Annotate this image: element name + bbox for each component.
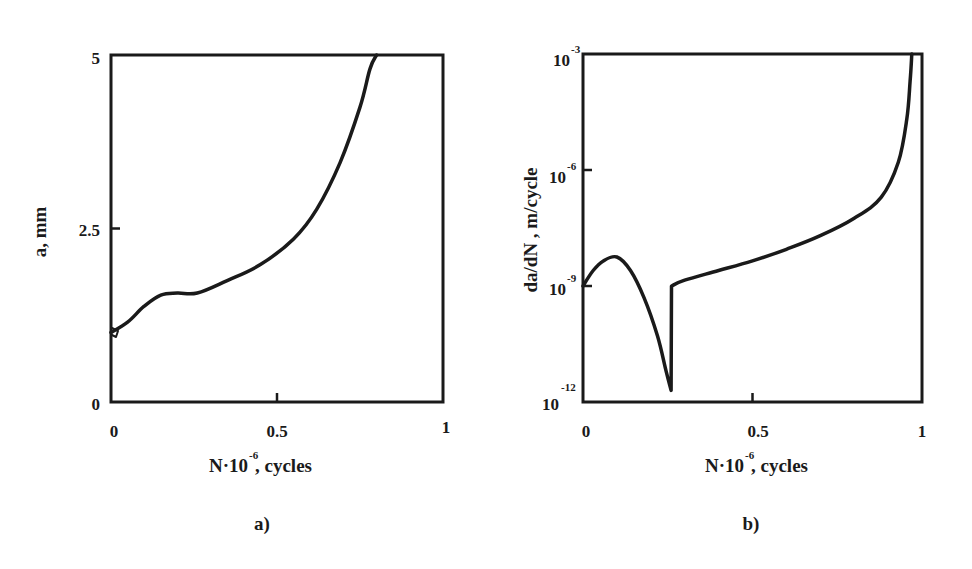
plot-b-frame: [583, 54, 922, 402]
plot-a-xtick-label: 0: [110, 422, 119, 441]
plot-b-xlabel: N·10 -6 , cycles: [705, 449, 808, 476]
plot-b-caption: b): [743, 513, 760, 535]
plot-a-xtick-label: 1: [442, 418, 451, 437]
plot-b-curve: [583, 54, 912, 390]
plot-b-xtick-label: 0.5: [747, 422, 768, 441]
plot-b-ytick-label-1e-12: 10 -12: [542, 381, 576, 414]
svg-text:-9: -9: [567, 272, 577, 284]
svg-text:-12: -12: [561, 381, 576, 393]
plot-a-ytick-label: 0: [92, 395, 101, 414]
svg-text:-3: -3: [571, 43, 581, 55]
plot-b-ytick-label-1e-9: 10 -9: [549, 272, 577, 299]
plot-a: 5 2.5 0 0 0.5 1 a, mm N·10 -6 , cycles a…: [29, 49, 450, 535]
figure-canvas: 5 2.5 0 0 0.5 1 a, mm N·10 -6 , cycles a…: [0, 0, 972, 569]
plot-b-ylabel: da/dN , m/cycle: [520, 167, 541, 292]
plot-a-ylabel: a, mm: [29, 207, 50, 258]
svg-text:-6: -6: [567, 160, 577, 172]
svg-text:N·10: N·10: [705, 455, 744, 476]
plot-b-ytick-label-1e-3: 10 -3: [553, 43, 581, 70]
plot-a-caption: a): [254, 513, 270, 535]
svg-text:, cycles: , cycles: [751, 455, 808, 476]
svg-text:10: 10: [549, 280, 566, 299]
svg-text:10: 10: [553, 51, 570, 70]
plot-a-ytick-label: 2.5: [79, 221, 100, 240]
svg-text:N·10: N·10: [209, 455, 248, 476]
svg-text:10: 10: [549, 168, 566, 187]
svg-text:10: 10: [542, 395, 559, 414]
plot-b-ytick-label-1e-6: 10 -6: [549, 160, 577, 187]
svg-text:, cycles: , cycles: [255, 455, 312, 476]
plot-b-xtick-label: 0: [582, 422, 591, 441]
plot-b: 10 -3 10 -6 10 -9 10 -12 0 0.5 1 da/dN ,…: [520, 43, 926, 535]
plot-a-xtick-label: 0.5: [266, 422, 287, 441]
plot-a-frame: [111, 55, 443, 402]
plot-a-curve: [111, 55, 377, 333]
plot-b-xtick-label: 1: [918, 422, 927, 441]
plot-a-ytick-label: 5: [92, 49, 101, 68]
plot-a-xlabel: N·10 -6 , cycles: [209, 449, 312, 476]
